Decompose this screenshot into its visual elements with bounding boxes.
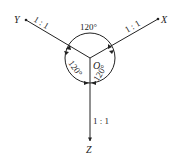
angle-label-lower-left: 120° <box>66 58 84 78</box>
arc-arrow-icon <box>91 81 96 85</box>
arc-arrow-icon <box>84 81 89 85</box>
arc-arrow-icon <box>64 51 69 55</box>
arc-arrow-icon <box>109 50 114 54</box>
angle-label-top: 120° <box>80 22 98 32</box>
z-axis-ratio: 1 : 1 <box>93 116 109 126</box>
z-axis-label: Z <box>86 144 92 155</box>
y-axis-ratio: 1 : 1 <box>32 14 51 31</box>
x-axis-label: X <box>160 14 168 25</box>
y-axis-label: Y <box>14 14 21 25</box>
x-axis-end-dot <box>157 18 160 21</box>
x-axis-ratio: 1 : 1 <box>123 18 142 35</box>
isometric-axes-diagram: Y X Z O 1 : 1 1 : 1 1 : 1 120° 120° 120° <box>0 0 179 162</box>
y-axis-end-dot <box>25 19 28 22</box>
